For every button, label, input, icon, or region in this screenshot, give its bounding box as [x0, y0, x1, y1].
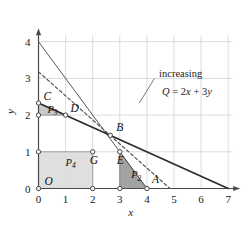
point-label-d: D [70, 102, 80, 114]
point-label-o: O [45, 175, 54, 187]
x-axis-label: x [127, 206, 133, 218]
linear-programming-figure: 0123456701234xyOABCDEGP4P2P3increasingQ … [0, 0, 252, 228]
y-tick-label: 1 [25, 146, 31, 158]
point-label-a: A [151, 173, 160, 185]
point-label-c: C [44, 90, 52, 102]
vertex-marker [36, 186, 40, 190]
vertex-marker [36, 113, 40, 117]
y-tick-label: 4 [25, 36, 31, 48]
point-label-g: G [90, 154, 99, 166]
x-tick-label: 2 [90, 193, 96, 205]
vertex-marker [36, 150, 40, 154]
vertex-marker [36, 101, 40, 105]
x-tick-label: 6 [198, 193, 204, 205]
vertex-marker [108, 133, 112, 137]
region-label-subscript: 2 [138, 174, 142, 183]
x-tick-label: 4 [144, 193, 150, 205]
x-tick-label: 7 [225, 193, 231, 205]
vertex-marker [63, 113, 67, 117]
x-tick-label: 1 [63, 193, 69, 205]
objective-equals: = 2 [170, 86, 186, 97]
annotation-increasing-text: increasing [159, 68, 203, 79]
vertex-marker [91, 186, 95, 190]
x-tick-label: 3 [117, 193, 123, 205]
objective-plus: + 3 [191, 86, 207, 97]
objective-y: y [206, 86, 212, 97]
annotation-objective-equation: Q = 2x + 3y [162, 86, 212, 97]
point-label-b: B [116, 121, 123, 133]
y-tick-label: 3 [25, 72, 31, 84]
x-tick-label: 0 [36, 193, 42, 205]
y-axis-arrow [36, 28, 41, 35]
y-tick-label: 0 [25, 183, 31, 195]
x-axis-arrow [233, 186, 240, 191]
vertex-marker [118, 186, 122, 190]
y-tick-label: 2 [25, 109, 31, 121]
region-label-subscript: 3 [53, 108, 58, 117]
point-label-e: E [116, 154, 124, 166]
plot-canvas: 0123456701234xyOABCDEGP4P2P3increasingQ … [0, 0, 252, 228]
vertex-marker [145, 186, 149, 190]
x-tick-label: 5 [171, 193, 177, 205]
y-axis-label: y [5, 109, 17, 115]
region-label-subscript: 4 [72, 161, 76, 170]
